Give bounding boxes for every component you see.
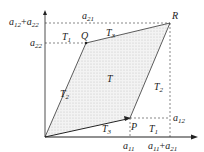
label-a11: a11 [123,140,134,152]
label-a12-plus-a22: a12+a22 [9,16,39,29]
label-T1-top: T1 [62,31,71,44]
point-Q-dot [85,42,88,45]
parallelogram-diagram: R Q P T T1 T3 T2 T2 T3 T1 a12+a22 a22 a2… [0,0,204,152]
label-T2-right: T2 [154,81,164,94]
label-a12-right: a12 [173,112,186,125]
label-a11-plus-a21: a11+a21 [148,140,177,152]
label-a22: a22 [30,37,43,50]
label-T3-bottom: T3 [102,123,112,136]
label-R: R [171,10,178,21]
x-axis-arrow-icon [191,135,198,140]
label-T1-bottom: T1 [149,123,158,136]
label-Q: Q [81,30,89,41]
y-axis-arrow-icon [43,10,47,15]
label-P: P [130,121,137,132]
label-a21-top: a21 [82,10,94,23]
